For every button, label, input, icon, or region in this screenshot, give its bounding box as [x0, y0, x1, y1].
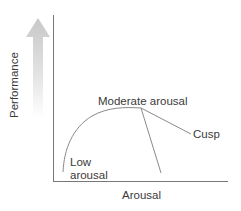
performance-arrow-icon	[26, 18, 50, 118]
moderate-arousal-label: Moderate arousal	[98, 95, 188, 108]
cusp-line	[141, 108, 191, 134]
low-arousal-label-line2: arousal	[70, 169, 108, 182]
catastrophe-drop-line	[141, 108, 161, 173]
x-axis-label: Arousal	[122, 189, 161, 202]
low-arousal-label-line1: Low	[70, 156, 91, 169]
y-axis-label: Performance	[8, 52, 20, 118]
cusp-label: Cusp	[193, 128, 220, 141]
